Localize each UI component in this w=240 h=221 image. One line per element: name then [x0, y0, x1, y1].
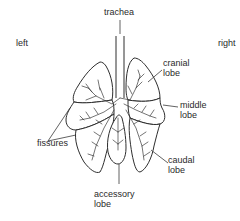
middle-line-2: lobe: [180, 110, 207, 120]
accessory-lobe-label: accessory lobe: [94, 189, 135, 209]
cranial-line-2: lobe: [163, 68, 190, 78]
cranial-lobe-label: cranial lobe: [163, 58, 190, 78]
caudal-lobe-label: caudal lobe: [168, 155, 195, 175]
left-side-label: left: [16, 38, 28, 48]
accessory-line-2: lobe: [94, 199, 135, 209]
fissures-text: fissures: [37, 138, 68, 148]
left-text: left: [16, 38, 28, 48]
left-cranial-lobe: [73, 62, 113, 103]
right-text: right: [218, 38, 236, 48]
right-caudal-lobe: [129, 118, 160, 172]
trachea-shape: [116, 36, 124, 98]
middle-line-1: middle: [180, 100, 207, 110]
right-cranial-lobe: [126, 58, 160, 101]
cranial-line-1: cranial: [163, 58, 190, 68]
right-side-label: right: [218, 38, 236, 48]
caudal-line-2: lobe: [168, 165, 195, 175]
trachea-text: trachea: [104, 7, 134, 17]
lung-lobes-diagram: trachea left right cranial lobe middle l…: [0, 0, 240, 221]
caudal-line-1: caudal: [168, 155, 195, 165]
fissures-label: fissures: [37, 138, 68, 148]
accessory-line-1: accessory: [94, 189, 135, 199]
middle-lobe-label: middle lobe: [180, 100, 207, 120]
trachea-label: trachea: [104, 7, 134, 17]
